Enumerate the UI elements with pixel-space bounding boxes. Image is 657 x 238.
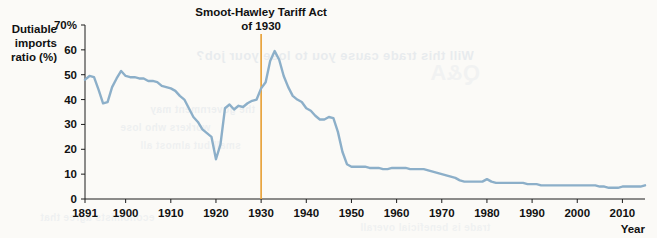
x-axis-tick-label: 1960 bbox=[384, 207, 410, 219]
annotation-line-1: Smoot-Hawley Tariff Act bbox=[195, 6, 327, 18]
y-axis-tick-label: 30 bbox=[64, 118, 77, 130]
x-axis-tick-label: 1950 bbox=[339, 207, 365, 219]
y-axis-title-line-2: imports bbox=[15, 37, 57, 49]
x-axis-tick-label: 1900 bbox=[113, 207, 139, 219]
x-axis-tick-label: 1891 bbox=[72, 207, 98, 219]
y-axis-ticks: 010203040506070% bbox=[54, 19, 85, 205]
y-axis-tick-label: 0 bbox=[71, 193, 77, 205]
y-axis-tick-label: 60 bbox=[64, 44, 77, 56]
y-axis-title: Dutiable imports ratio (%) bbox=[11, 23, 57, 63]
annotation-line-2: of 1930 bbox=[241, 20, 281, 32]
x-axis-ticks: 1891190019101920193019401950196019701980… bbox=[72, 199, 635, 219]
y-axis-tick-label: 20 bbox=[64, 143, 77, 155]
x-axis-tick-label: 1930 bbox=[248, 207, 274, 219]
y-axis-tick-label: 70% bbox=[54, 19, 77, 31]
smoot-hawley-annotation: Smoot-Hawley Tariff Act of 1930 bbox=[195, 6, 327, 32]
x-axis-tick-label: 1910 bbox=[158, 207, 184, 219]
y-axis-title-line-3: ratio (%) bbox=[11, 51, 57, 63]
y-axis-tick-label: 10 bbox=[64, 168, 77, 180]
x-axis-tick-label: 2000 bbox=[564, 207, 590, 219]
x-axis-tick-label: 1920 bbox=[203, 207, 229, 219]
line-chart: Dutiable imports ratio (%) 0102030405060… bbox=[0, 0, 657, 238]
y-axis-tick-label: 50 bbox=[64, 69, 77, 81]
y-axis-title-line-1: Dutiable bbox=[12, 23, 57, 35]
x-axis-tick-label: 1990 bbox=[519, 207, 545, 219]
chart-figure: Will this trade cause you to lose your j… bbox=[0, 0, 657, 238]
y-axis-tick-label: 40 bbox=[64, 94, 77, 106]
x-axis-tick-label: 2010 bbox=[610, 207, 636, 219]
x-axis-tick-label: 1940 bbox=[293, 207, 319, 219]
dutiable-imports-ratio-line bbox=[85, 51, 645, 188]
x-axis-tick-label: 1970 bbox=[429, 207, 455, 219]
x-axis-tick-label: 1980 bbox=[474, 207, 500, 219]
x-axis-title: Year bbox=[621, 223, 646, 235]
